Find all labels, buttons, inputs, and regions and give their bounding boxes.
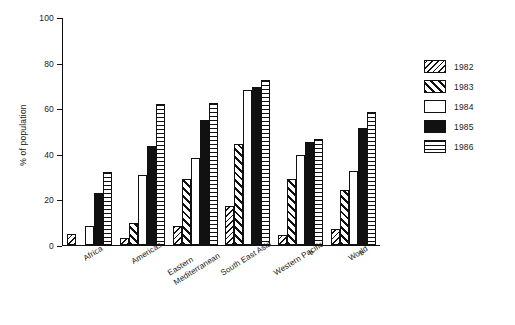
bar-group xyxy=(327,18,380,245)
legend-swatch-1982 xyxy=(424,60,446,73)
legend-swatch-1985 xyxy=(424,120,446,133)
bar-1986 xyxy=(103,172,112,245)
legend-swatch-1984 xyxy=(424,100,446,113)
bar-group xyxy=(274,18,327,245)
x-axis-labels: AfricaAmericasEastern MediterraneanSouth… xyxy=(63,248,381,318)
bar-1982 xyxy=(173,226,182,245)
bar-1985 xyxy=(358,128,367,245)
y-tick-mark xyxy=(57,155,62,156)
y-tick-label: 40 xyxy=(44,150,54,160)
legend-label-1985: 1985 xyxy=(454,122,474,132)
bar-1984 xyxy=(296,155,305,245)
x-axis-category-label: Africa xyxy=(81,244,104,263)
y-tick-mark xyxy=(57,18,62,19)
legend-item-1982: 1982 xyxy=(424,60,474,73)
bar-group xyxy=(169,18,222,245)
legend-label-1986: 1986 xyxy=(454,142,474,152)
bar-1985 xyxy=(305,142,314,245)
bar-1985 xyxy=(200,120,209,245)
bar-1984 xyxy=(191,158,200,245)
bar-1982 xyxy=(67,234,76,245)
bar-1983 xyxy=(129,223,138,245)
y-tick-mark xyxy=(57,200,62,201)
plot-area: 020406080100 xyxy=(62,18,380,246)
bar-1985 xyxy=(252,87,261,245)
legend-item-1985: 1985 xyxy=(424,120,474,133)
bar-group xyxy=(221,18,274,245)
bar-groups xyxy=(63,18,380,245)
y-tick-label: 60 xyxy=(44,104,54,114)
legend-item-1984: 1984 xyxy=(424,100,474,113)
x-axis-category-label: World a xyxy=(346,244,369,263)
x-label-cell: World a xyxy=(328,248,381,318)
x-label-cell: Africa xyxy=(63,248,116,318)
legend-swatch-1986 xyxy=(424,140,446,153)
legend-label-1982: 1982 xyxy=(454,62,474,72)
bar-1983 xyxy=(234,144,243,245)
bar-1986 xyxy=(314,139,323,245)
legend-item-1986: 1986 xyxy=(424,140,474,153)
bar-group xyxy=(116,18,169,245)
x-label-cell: Eastern Mediterranean xyxy=(169,248,222,318)
bar-group xyxy=(63,18,116,245)
bar-1984 xyxy=(85,226,94,245)
bar-1986 xyxy=(261,80,270,245)
x-label-cell: Americas xyxy=(116,248,169,318)
bar-1985 xyxy=(94,193,103,245)
y-tick-label: 20 xyxy=(44,195,54,205)
bar-1983 xyxy=(182,179,191,245)
x-label-cell: Western Pacific a xyxy=(275,248,328,318)
bar-1984 xyxy=(349,171,358,245)
bar-chart: % of population 020406080100 AfricaAmeri… xyxy=(0,0,515,325)
y-tick-label: 100 xyxy=(39,13,54,23)
y-axis-label: % of population xyxy=(18,60,28,210)
y-tick-mark xyxy=(57,109,62,110)
y-tick-label: 80 xyxy=(44,59,54,69)
bar-1985 xyxy=(147,146,156,245)
y-tick-label: 0 xyxy=(49,241,54,251)
legend-swatch-1983 xyxy=(424,80,446,93)
legend-item-1983: 1983 xyxy=(424,80,474,93)
bar-1982 xyxy=(120,238,129,245)
y-tick-mark xyxy=(57,64,62,65)
bar-1984 xyxy=(243,90,252,245)
chart-legend: 19821983198419851986 xyxy=(424,60,474,153)
bar-1986 xyxy=(367,112,376,245)
legend-label-1984: 1984 xyxy=(454,102,474,112)
bar-1986 xyxy=(209,103,218,246)
y-tick-mark xyxy=(57,246,62,247)
bar-1984 xyxy=(138,175,147,245)
x-label-cell: South East Asia xyxy=(222,248,275,318)
bar-1986 xyxy=(156,104,165,245)
legend-label-1983: 1983 xyxy=(454,82,474,92)
